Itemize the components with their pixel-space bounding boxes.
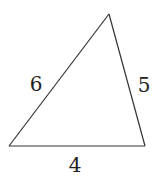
side-right-label: 5 — [138, 73, 151, 97]
side-left-label: 6 — [30, 72, 43, 96]
side-left-edge — [9, 14, 109, 146]
triangle-diagram: 6 5 4 — [0, 0, 162, 184]
side-bottom-label: 4 — [69, 153, 82, 177]
